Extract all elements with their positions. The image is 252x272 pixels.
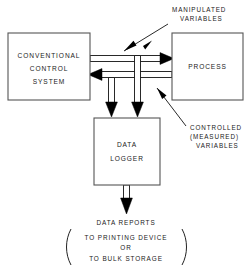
manipulated-leader — [124, 24, 168, 51]
manipulated-flow-connector — [90, 53, 174, 65]
logger-output-connector — [121, 185, 133, 214]
data-reports-line: OR — [120, 244, 131, 251]
annotation-controlled-measured-variables: CONTROLLED (MEASURED) VARIABLES — [190, 124, 242, 149]
controlled-tap-connector — [106, 78, 118, 118]
annotation-line: VARIABLES — [180, 15, 223, 22]
data-reports-heading: DATA REPORTS — [96, 219, 155, 226]
box-label-line: CONVENTIONAL — [18, 52, 81, 59]
box-conventional-control-system: CONVENTIONAL CONTROL SYSTEM — [8, 33, 90, 100]
annotation-line: MANIPULATED — [172, 6, 226, 13]
box-data-logger: DATA LOGGER — [94, 118, 160, 185]
box-label-line: SYSTEM — [33, 78, 66, 85]
data-reports-line: TO BULK STORAGE — [89, 255, 163, 262]
box-process: PROCESS — [172, 33, 243, 100]
controlled-flow-connector — [88, 69, 172, 81]
diagram-canvas: CONVENTIONAL CONTROL SYSTEM PROCESS DATA… — [0, 0, 252, 272]
manipulated-tap-connector — [132, 56, 144, 118]
box-label-line: CONTROL — [30, 65, 69, 72]
annotation-line: (MEASURED) — [190, 133, 239, 141]
annotation-line: VARIABLES — [196, 142, 239, 149]
box-label-line: DATA — [117, 141, 137, 148]
box-label-line: LOGGER — [110, 155, 144, 162]
control-system-diagram: CONVENTIONAL CONTROL SYSTEM PROCESS DATA… — [0, 0, 252, 272]
box-label-line: PROCESS — [188, 63, 227, 70]
annotation-manipulated-variables: MANIPULATED VARIABLES — [172, 6, 226, 22]
annotation-line: CONTROLLED — [190, 124, 242, 131]
data-reports-block: DATA REPORTS TO PRINTING DEVICE OR TO BU… — [67, 219, 187, 265]
data-reports-line: TO PRINTING DEVICE — [85, 234, 168, 241]
